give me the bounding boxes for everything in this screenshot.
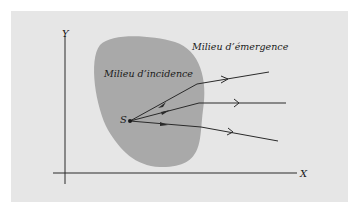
incidence-medium-region xyxy=(94,36,204,167)
source-label: S xyxy=(120,114,127,125)
emergence-medium-label: Milieu d’émergence xyxy=(191,41,289,52)
refraction-diagram: Y X S Milieu d’incidence Milieu d’émerge… xyxy=(0,0,359,213)
y-axis-label: Y xyxy=(62,28,70,39)
source-point xyxy=(128,119,132,123)
x-axis-label: X xyxy=(299,168,308,179)
incidence-medium-label: Milieu d’incidence xyxy=(103,68,193,79)
